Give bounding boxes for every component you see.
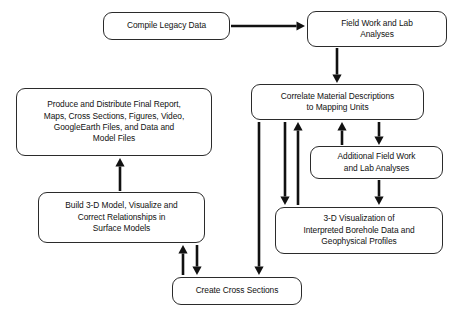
node-label: Create Cross Sections <box>196 285 279 296</box>
node-label-line: Correct Relationships in <box>65 212 177 223</box>
node-correlate-material-descriptions[interactable]: Correlate Material Descriptionsto Mappin… <box>251 84 424 120</box>
node-label-line: Produce and Distribute Final Report, <box>44 99 184 110</box>
node-field-work-lab-analyses[interactable]: Field Work and LabAnalyses <box>307 11 447 47</box>
node-label-line: Build 3-D Model, Visualize and <box>65 200 177 211</box>
arrow-edge-cross-sections-to-build <box>178 245 187 275</box>
node-label-line: Field Work and Lab <box>341 18 413 29</box>
node-label-line: GoogleEarth Files, and Data and <box>44 122 184 133</box>
node-build-3d-model[interactable]: Build 3-D Model, Visualize andCorrect Re… <box>38 192 205 243</box>
node-label-line: Compile Legacy Data <box>127 20 206 31</box>
node-label-line: 3-D Visualization of <box>303 213 414 224</box>
arrow-edge-visualization-to-correlate <box>293 122 302 205</box>
arrow-edge-additional-from-correlate <box>374 122 383 145</box>
node-label-line: Additional Field Work <box>338 151 416 162</box>
flowchart-canvas: Compile Legacy DataField Work and LabAna… <box>0 0 469 319</box>
arrow-edge-correlate-to-cross-sections <box>254 122 263 275</box>
node-label: 3-D Visualization ofInterpreted Borehole… <box>303 213 414 247</box>
node-label: Compile Legacy Data <box>127 20 206 31</box>
node-label-line: Maps, Cross Sections, Figures, Video, <box>44 111 184 122</box>
node-label-line: Correlate Material Descriptions <box>281 91 394 102</box>
node-label-line: Interpreted Borehole Data and <box>303 225 414 236</box>
arrow-edge-compile-to-fieldwork <box>231 21 305 30</box>
node-produce-distribute-final-report[interactable]: Produce and Distribute Final Report,Maps… <box>16 88 212 156</box>
node-label: Additional Field Workand Lab Analyses <box>338 151 416 174</box>
arrow-edge-correlate-to-visualization <box>280 122 289 205</box>
node-label-line: Geophysical Profiles <box>303 236 414 247</box>
node-label: Field Work and LabAnalyses <box>341 18 413 41</box>
arrow-edge-build-to-cross-sections <box>192 245 201 275</box>
node-label-line: Model Files <box>44 133 184 144</box>
node-3d-visualization-borehole[interactable]: 3-D Visualization ofInterpreted Borehole… <box>275 207 443 254</box>
node-create-cross-sections[interactable]: Create Cross Sections <box>172 277 302 305</box>
node-label: Produce and Distribute Final Report,Maps… <box>44 99 184 145</box>
node-label-line: to Mapping Units <box>281 102 394 113</box>
node-label-line: Create Cross Sections <box>196 285 279 296</box>
node-label: Correlate Material Descriptionsto Mappin… <box>281 91 394 114</box>
node-label-line: Analyses <box>341 29 413 40</box>
node-additional-field-work[interactable]: Additional Field Workand Lab Analyses <box>310 146 443 179</box>
arrow-edge-additional-to-visualization <box>374 180 383 205</box>
node-label: Build 3-D Model, Visualize andCorrect Re… <box>65 200 177 234</box>
node-label-line: and Lab Analyses <box>338 163 416 174</box>
node-compile-legacy-data[interactable]: Compile Legacy Data <box>103 12 230 40</box>
arrow-edge-correlate-to-additional <box>337 122 346 145</box>
arrow-edge-build-to-produce <box>115 158 124 191</box>
node-label-line: Surface Models <box>65 223 177 234</box>
arrow-edge-fieldwork-to-correlate <box>332 48 341 83</box>
